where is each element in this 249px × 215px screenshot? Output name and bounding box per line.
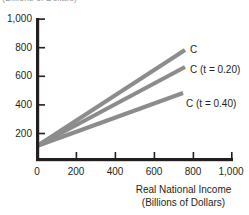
x-axis-spine bbox=[36, 158, 233, 161]
x-tick-label-0: 0 bbox=[20, 166, 54, 177]
y-tick-400 bbox=[39, 104, 45, 106]
x-tick-600 bbox=[154, 152, 156, 158]
chart-figure: (Billions of Dollars) bbox=[0, 0, 249, 215]
y-tick-label-400: 400 bbox=[0, 99, 32, 110]
y-tick-label-800: 800 bbox=[0, 42, 32, 53]
x-tick-1000 bbox=[231, 152, 233, 158]
y-tick-label-200: 200 bbox=[0, 128, 32, 139]
y-axis-ticks bbox=[39, 18, 45, 134]
x-axis-ticks bbox=[37, 152, 233, 158]
series-label-c-t020: C (t = 0.20) bbox=[190, 64, 240, 75]
series-group bbox=[37, 50, 185, 146]
x-tick-label-600: 600 bbox=[137, 166, 171, 177]
y-tick-label-1000: 1,000 bbox=[0, 13, 32, 24]
y-tick-label-600: 600 bbox=[0, 70, 32, 81]
x-tick-200 bbox=[76, 152, 78, 158]
x-tick-label-400: 400 bbox=[98, 166, 132, 177]
x-tick-0 bbox=[37, 152, 39, 158]
axis-spines bbox=[36, 18, 233, 161]
x-tick-label-200: 200 bbox=[59, 166, 93, 177]
series-line-c-t020 bbox=[37, 67, 185, 146]
x-axis-title: Real National Income (Billions of Dollar… bbox=[118, 183, 249, 209]
y-tick-800 bbox=[39, 47, 45, 49]
series-label-c: C bbox=[190, 44, 197, 55]
x-tick-label-800: 800 bbox=[176, 166, 210, 177]
series-line-c bbox=[37, 50, 185, 146]
x-tick-label-1000: 1,000 bbox=[214, 166, 248, 177]
x-tick-800 bbox=[193, 152, 195, 158]
series-label-c-t040: C (t = 0.40) bbox=[186, 98, 236, 109]
y-tick-600 bbox=[39, 76, 45, 78]
y-tick-1000 bbox=[39, 18, 45, 20]
y-tick-200 bbox=[39, 133, 45, 135]
x-axis-title-line2: (Billions of Dollars) bbox=[118, 196, 249, 209]
x-axis-title-line1: Real National Income bbox=[118, 183, 249, 196]
x-tick-400 bbox=[115, 152, 117, 158]
y-axis-spine bbox=[36, 18, 39, 161]
